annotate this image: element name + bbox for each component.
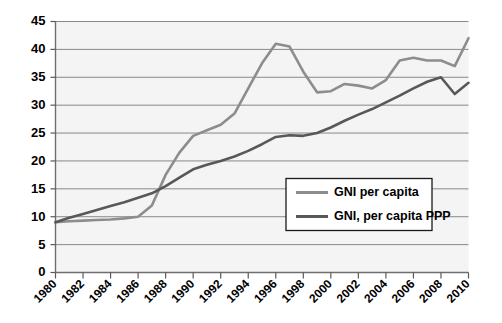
y-tick-label: 30 <box>31 97 45 112</box>
y-tick-label: 25 <box>31 125 45 140</box>
y-axis: 051015202530354045 <box>31 13 55 279</box>
x-tick-label: 1988 <box>141 276 170 305</box>
chart-canvas: 051015202530354045 198019821984198619881… <box>0 0 502 323</box>
x-tick-label: 1980 <box>31 276 60 305</box>
x-axis: 1980198219841986198819901992199419961998… <box>31 273 473 306</box>
y-tick-label: 5 <box>38 237 45 252</box>
y-tick-label: 45 <box>31 13 45 28</box>
x-tick-label: 2000 <box>306 276 335 305</box>
x-tick-label: 2004 <box>361 276 390 305</box>
x-tick-label: 1994 <box>224 276 253 305</box>
x-tick-label: 1984 <box>86 276 115 305</box>
legend-label: GNI per capita <box>334 185 420 199</box>
line-chart: 051015202530354045 198019821984198619881… <box>0 0 502 323</box>
x-tick-label: 1982 <box>58 276 87 305</box>
y-tick-label: 20 <box>31 153 45 168</box>
x-tick-label: 2008 <box>416 276 445 305</box>
y-tick-label: 0 <box>38 264 45 279</box>
y-tick-label: 35 <box>31 69 45 84</box>
x-tick-label: 2010 <box>444 276 473 305</box>
y-tick-label: 10 <box>31 209 45 224</box>
y-tick-label: 15 <box>31 181 45 196</box>
x-tick-label: 1986 <box>113 276 142 305</box>
x-tick-label: 1990 <box>169 276 198 305</box>
x-tick-label: 1992 <box>196 276 225 305</box>
x-tick-label: 2002 <box>334 276 363 305</box>
x-tick-label: 1996 <box>251 276 280 305</box>
chart-legend: GNI per capitaGNI, per capita PPP <box>286 179 451 231</box>
x-tick-label: 2006 <box>389 276 418 305</box>
x-tick-label: 1998 <box>279 276 308 305</box>
legend-label: GNI, per capita PPP <box>334 209 451 223</box>
y-tick-label: 40 <box>31 41 45 56</box>
